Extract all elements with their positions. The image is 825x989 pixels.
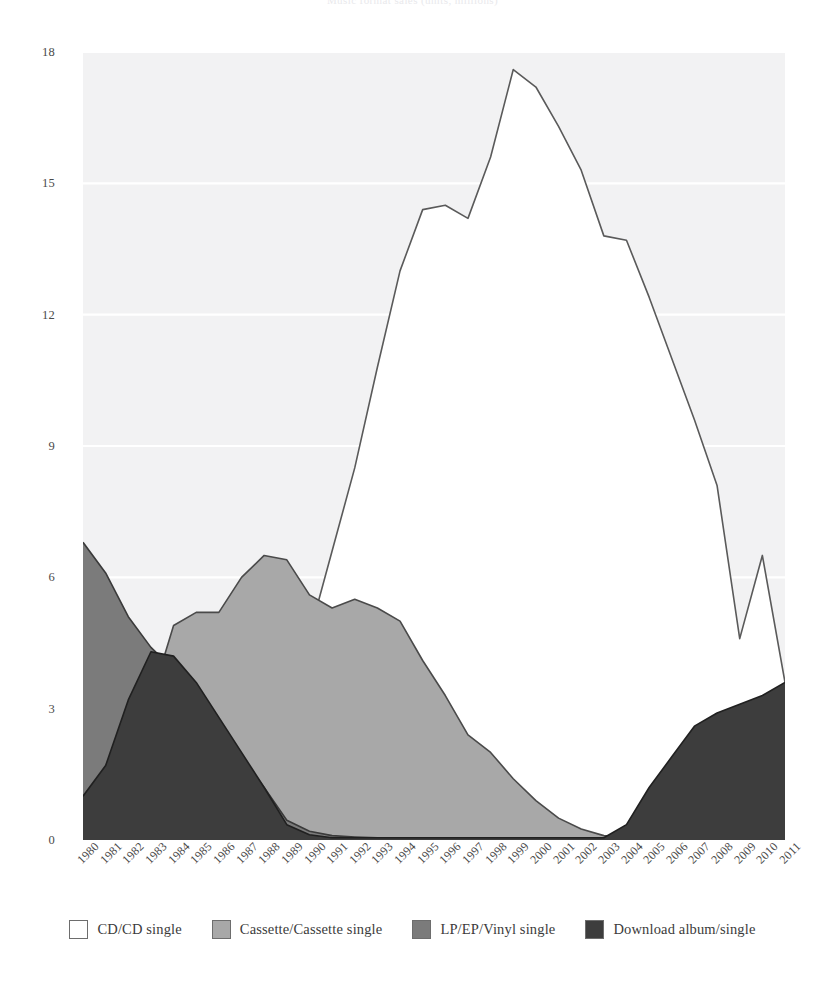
y-axis-tick: 12: [42, 307, 55, 322]
x-axis-tick: 1996: [437, 839, 465, 867]
y-axis-tick: 3: [48, 701, 55, 716]
legend-swatch-icon: [69, 920, 88, 939]
legend-item-3[interactable]: Download album/single: [585, 920, 755, 939]
x-axis-tick: 2003: [595, 839, 623, 867]
x-axis-tick: 1989: [278, 839, 306, 867]
legend-swatch-icon: [412, 920, 431, 939]
y-axis-tick: 9: [48, 439, 55, 454]
chart-root: Music format sales (units, millions) 036…: [0, 0, 825, 989]
x-axis-tick: 1994: [391, 839, 419, 867]
plot-area: [83, 52, 785, 840]
x-axis-tick: 2001: [550, 839, 578, 867]
y-axis-tick: 6: [48, 570, 55, 585]
x-axis-tick: 1983: [142, 839, 170, 867]
legend-swatch-icon: [212, 920, 231, 939]
x-axis-tick: 1987: [233, 839, 261, 867]
y-axis-tick: 18: [42, 45, 55, 60]
x-axis-tick: 2004: [618, 839, 646, 867]
series-areas: [83, 70, 785, 840]
x-axis-tick: 2000: [527, 839, 555, 867]
x-axis-tick: 1990: [301, 839, 329, 867]
x-axis-tick: 2011: [776, 839, 804, 867]
x-axis-tick: 2010: [754, 839, 782, 867]
x-axis-tick: 2005: [640, 839, 668, 867]
x-axis-tick: 1991: [323, 839, 351, 867]
x-axis-tick: 2007: [686, 839, 714, 867]
plot-svg: [83, 52, 785, 840]
x-axis-tick: 1985: [187, 839, 215, 867]
chart-title: Music format sales (units, millions): [0, 0, 825, 6]
legend-item-2[interactable]: LP/EP/Vinyl single: [412, 920, 555, 939]
legend-swatch-icon: [585, 920, 604, 939]
x-axis-tick: 1986: [210, 839, 238, 867]
x-axis-tick: 1999: [505, 839, 533, 867]
legend-label: CD/CD single: [97, 921, 181, 938]
x-axis-tick: 2002: [572, 839, 600, 867]
x-axis-tick: 1982: [120, 839, 148, 867]
y-axis-tick: 15: [42, 176, 55, 191]
chart-legend: CD/CD singleCassette/Cassette singleLP/E…: [0, 920, 825, 939]
x-axis-tick: 1993: [369, 839, 397, 867]
legend-item-0[interactable]: CD/CD single: [69, 920, 181, 939]
y-axis-tick: 0: [48, 833, 55, 848]
x-axis-tick: 2008: [708, 839, 736, 867]
x-axis-tick: 1988: [255, 839, 283, 867]
x-axis-tick: 1980: [74, 839, 102, 867]
y-axis: 0369121518: [0, 52, 83, 840]
legend-label: Download album/single: [613, 921, 755, 938]
legend-label: Cassette/Cassette single: [240, 921, 383, 938]
x-axis-tick: 1997: [459, 839, 487, 867]
legend-label: LP/EP/Vinyl single: [440, 921, 555, 938]
x-axis: 1980198119821983198419851986198719881989…: [83, 840, 785, 920]
legend-item-1[interactable]: Cassette/Cassette single: [212, 920, 383, 939]
